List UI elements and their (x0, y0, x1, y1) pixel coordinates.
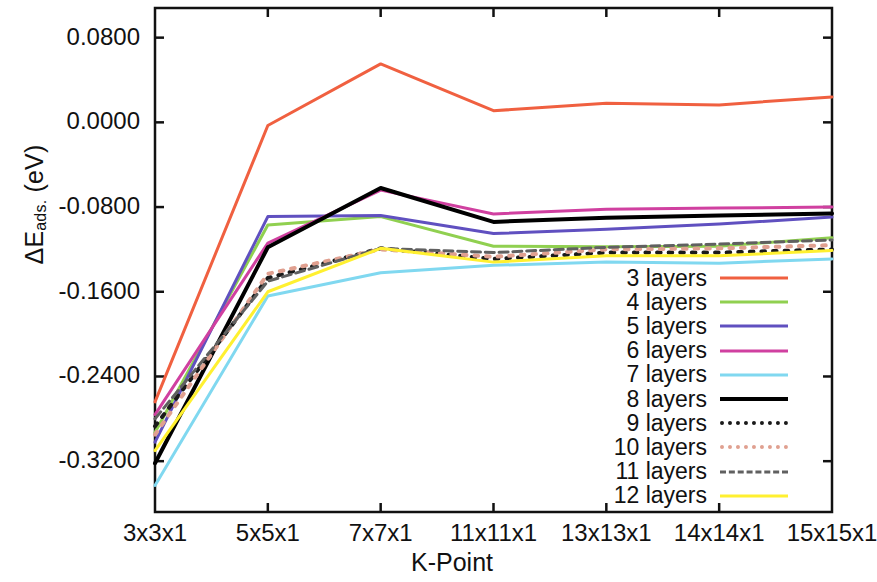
x-tick-label: 11x11x1 (450, 521, 537, 545)
legend-item-label: 4 layers (626, 291, 707, 314)
legend-item: 4 layers (556, 290, 788, 314)
y-tick-label: 0.0800 (22, 25, 140, 49)
x-tick-label: 15x15x1 (787, 521, 877, 545)
legend-item-label: 11 layers (615, 460, 707, 483)
x-tick-label: 5x5x1 (236, 521, 300, 545)
legend-item: 12 layers (556, 484, 788, 508)
legend-item: 7 layers (556, 363, 788, 387)
legend-color-swatch (720, 271, 788, 285)
y-tick-label: -0.2400 (22, 363, 140, 387)
legend-item-label: 12 layers (614, 484, 707, 507)
legend-item: 9 layers (556, 411, 788, 435)
x-tick-label: 3x3x1 (123, 521, 187, 545)
legend-item-label: 5 layers (626, 315, 707, 338)
legend-color-swatch (720, 295, 788, 309)
legend-color-swatch (720, 368, 788, 382)
legend-color-swatch (720, 416, 788, 430)
legend-item: 10 layers (556, 435, 788, 459)
legend-item-label: 7 layers (626, 363, 707, 386)
legend-item: 8 layers (556, 387, 788, 411)
legend-item-label: 6 layers (626, 339, 707, 362)
y-tick-label: -0.0800 (22, 194, 140, 218)
legend-item: 5 layers (556, 314, 788, 338)
legend-color-swatch (720, 465, 788, 479)
x-tick-label: 7x7x1 (349, 521, 413, 545)
legend: 3 layers4 layers5 layers6 layers7 layers… (556, 266, 788, 508)
y-tick-label: 0.0000 (22, 109, 140, 133)
legend-item: 11 layers (556, 460, 788, 484)
legend-item-label: 10 layers (614, 436, 707, 459)
x-axis-title: K-Point (0, 548, 849, 577)
legend-item-label: 9 layers (626, 412, 707, 435)
x-tick-label: 13x13x1 (561, 521, 652, 545)
legend-item-label: 3 layers (626, 267, 707, 290)
legend-item: 3 layers (556, 266, 788, 290)
legend-color-swatch (720, 344, 788, 358)
legend-color-swatch (720, 489, 788, 503)
legend-color-swatch (720, 392, 788, 406)
y-tick-label: -0.3200 (22, 448, 140, 472)
legend-item: 6 layers (556, 339, 788, 363)
legend-color-swatch (720, 319, 788, 333)
x-axis-title-text: K-Point (411, 548, 493, 577)
legend-item-label: 8 layers (626, 388, 707, 411)
legend-color-swatch (720, 440, 788, 454)
x-tick-label: 14x14x1 (674, 521, 765, 545)
y-tick-label: -0.1600 (22, 279, 140, 303)
